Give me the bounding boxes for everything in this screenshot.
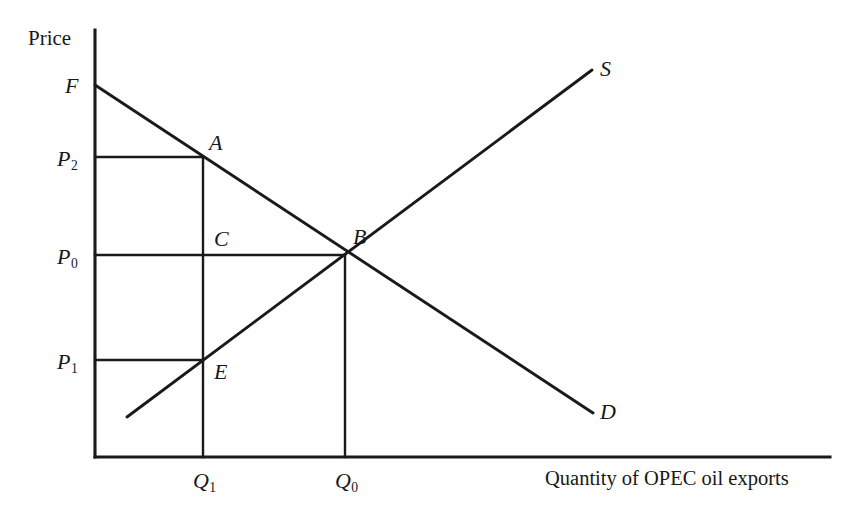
supply-demand-diagram: Price Quantity of OPEC oil exports S D F… — [0, 0, 855, 527]
x-axis-title: Quantity of OPEC oil exports — [545, 468, 789, 489]
axes-group — [95, 30, 830, 457]
point-label-b: B — [353, 226, 366, 248]
quantity-tick-label-q0: Q0 — [335, 470, 358, 492]
point-label-a: A — [209, 132, 222, 154]
price-tick-p1-subscript: 1 — [71, 361, 78, 376]
curve-label-demand: D — [600, 401, 616, 423]
price-tick-label-p2: P2 — [57, 148, 77, 170]
price-tick-label-p1: P1 — [57, 351, 77, 373]
price-tick-p1-symbol: P — [57, 349, 70, 374]
point-label-c: C — [214, 228, 229, 250]
quantity-tick-q1-subscript: 1 — [209, 480, 216, 495]
quantity-tick-q1-symbol: Q — [193, 468, 209, 493]
price-tick-p2-subscript: 2 — [71, 158, 78, 173]
y-axis-title: Price — [28, 28, 71, 49]
price-tick-p0-subscript: 0 — [71, 256, 78, 271]
quantity-tick-q0-subscript: 0 — [351, 480, 358, 495]
diagram-canvas — [0, 0, 855, 527]
point-label-e: E — [214, 361, 227, 383]
price-tick-p0-symbol: P — [57, 244, 70, 269]
point-label-f: F — [65, 75, 78, 97]
price-tick-p2-symbol: P — [57, 146, 70, 171]
quantity-tick-q0-symbol: Q — [335, 468, 351, 493]
curve-label-supply: S — [600, 58, 611, 80]
price-tick-label-p0: P0 — [57, 246, 77, 268]
quantity-tick-label-q1: Q1 — [193, 470, 216, 492]
